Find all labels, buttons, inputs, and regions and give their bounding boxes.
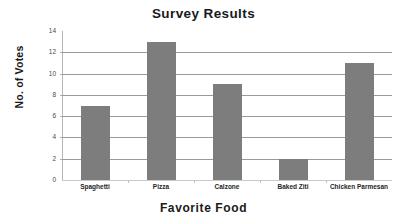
x-tick-label-pizza: Pizza [124, 183, 198, 192]
y-axis-tick-labels: 02468101214 [26, 31, 56, 180]
x-axis-line [62, 180, 392, 181]
chart-title: Survey Results [0, 6, 407, 21]
bar-chicken-parmesan [345, 63, 374, 180]
x-tick-label-calzone: Calzone [190, 183, 264, 192]
y-tick-label-8: 8 [30, 91, 56, 98]
y-tick-label-14: 14 [30, 27, 56, 34]
y-tick-label-0: 0 [30, 176, 56, 183]
bar-calzone [213, 84, 242, 180]
plot-area [62, 31, 392, 180]
bar-baked-ziti [279, 159, 308, 180]
gridline-12 [62, 52, 392, 53]
y-tick-label-6: 6 [30, 112, 56, 119]
y-tick-label-12: 12 [30, 48, 56, 55]
y-tick-label-2: 2 [30, 155, 56, 162]
x-tick-label-baked-ziti: Baked Ziti [256, 183, 330, 192]
x-axis-title: Favorite Food [0, 201, 407, 215]
x-tick-label-chicken-parmesan: Chicken Parmesan [322, 183, 396, 192]
x-tick-label-spaghetti: Spaghetti [58, 183, 132, 192]
gridline-10 [62, 74, 392, 75]
y-axis-line [62, 31, 63, 180]
y-axis-title: No. of Votes [13, 27, 25, 127]
bar-spaghetti [81, 106, 110, 181]
bar-chart: Survey Results No. of Votes 02468101214 … [0, 0, 407, 221]
y-tick-label-10: 10 [30, 70, 56, 77]
bar-pizza [147, 42, 176, 180]
y-tick-label-4: 4 [30, 133, 56, 140]
